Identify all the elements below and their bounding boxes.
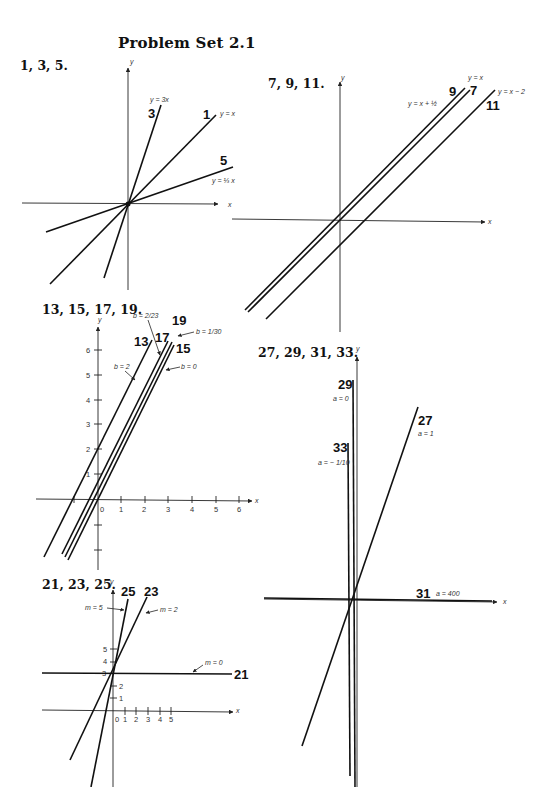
line-29	[353, 380, 355, 787]
svg-text:0: 0	[115, 715, 119, 724]
svg-text:5: 5	[214, 505, 218, 514]
svg-text:1: 1	[203, 107, 210, 122]
svg-text:y = x: y = x	[467, 74, 483, 82]
svg-text:4: 4	[158, 715, 162, 724]
svg-text:y: y	[97, 316, 102, 324]
figure-5-graph: y x 29 a = 0 33 a = − 1/10 27 a = 1 31 a…	[264, 345, 507, 787]
svg-text:7: 7	[470, 83, 477, 98]
svg-text:1: 1	[119, 505, 123, 514]
svg-text:a = 1: a = 1	[418, 430, 434, 437]
svg-text:b = 0: b = 0	[181, 363, 197, 370]
svg-text:y = x − 2: y = x − 2	[497, 88, 525, 96]
svg-text:11: 11	[486, 98, 500, 113]
figure-2-graph: y x 9 7 y = x y = x + ½ 11 y = x − 2	[232, 74, 525, 332]
line-27	[302, 407, 418, 746]
svg-text:m = 5: m = 5	[85, 604, 103, 611]
svg-text:5: 5	[86, 371, 90, 380]
svg-text:x: x	[487, 218, 492, 225]
svg-text:x: x	[254, 497, 259, 504]
svg-text:13: 13	[134, 334, 148, 349]
svg-text:2: 2	[119, 682, 123, 691]
svg-text:b = 1/30: b = 1/30	[196, 328, 222, 335]
svg-text:15: 15	[176, 341, 190, 356]
line-25	[91, 599, 128, 787]
x-axis	[232, 219, 485, 222]
svg-text:m = 0: m = 0	[205, 659, 223, 666]
svg-text:y = ⅓ x: y = ⅓ x	[211, 177, 235, 185]
svg-text:33: 33	[333, 440, 347, 455]
svg-text:x: x	[235, 707, 240, 714]
x-axis	[22, 203, 218, 204]
svg-text:3: 3	[86, 420, 90, 429]
svg-text:0: 0	[100, 505, 104, 514]
svg-text:19: 19	[172, 313, 186, 328]
line-15	[68, 345, 174, 560]
line-9	[245, 88, 465, 310]
svg-text:y: y	[355, 345, 360, 353]
svg-text:6: 6	[237, 505, 241, 514]
svg-text:1: 1	[119, 694, 123, 703]
svg-text:27: 27	[418, 413, 432, 428]
figures-canvas: y x 3 y = 3x 1 y = x 5 y = ⅓ x y x 9 7 y…	[0, 0, 537, 787]
line-23	[70, 597, 147, 760]
svg-text:31: 31	[416, 586, 430, 601]
svg-text:b = 2: b = 2	[114, 363, 130, 370]
svg-text:x: x	[227, 201, 232, 208]
svg-text:3: 3	[146, 715, 150, 724]
svg-text:y = x: y = x	[219, 110, 235, 118]
figure-1-graph: y x 3 y = 3x 1 y = x 5 y = ⅓ x	[22, 58, 235, 290]
line-7	[248, 90, 470, 312]
svg-text:a = − 1/10: a = − 1/10	[318, 459, 350, 466]
line-3	[104, 105, 161, 278]
svg-text:6: 6	[86, 346, 90, 355]
svg-text:b = 2/23: b = 2/23	[133, 312, 159, 319]
svg-text:m = 2: m = 2	[160, 606, 178, 613]
svg-text:9: 9	[449, 84, 456, 99]
svg-text:2: 2	[134, 715, 138, 724]
svg-text:29: 29	[338, 377, 352, 392]
svg-text:y = 3x: y = 3x	[149, 96, 169, 104]
line-5	[46, 167, 233, 232]
figure-4-graph: y x 0 1 2 3 4 5 1 2 3 4 5 25 23 21 m = 5…	[42, 578, 248, 787]
svg-text:y: y	[340, 74, 345, 82]
svg-text:17: 17	[155, 330, 169, 345]
svg-text:25: 25	[121, 584, 135, 599]
line-11	[266, 90, 495, 319]
x-axis	[36, 499, 252, 501]
svg-text:5: 5	[169, 715, 173, 724]
x-axis	[42, 710, 233, 712]
svg-text:1: 1	[123, 715, 127, 724]
svg-text:4: 4	[86, 396, 90, 405]
line-21	[42, 673, 232, 674]
svg-text:a = 0: a = 0	[333, 395, 349, 402]
svg-text:3: 3	[166, 505, 170, 514]
svg-text:a = 400: a = 400	[436, 590, 460, 597]
figure-3-graph: y x 0 1 2 3 4 5 6 1 2 3 4 5 6 13 17 19	[36, 312, 259, 570]
line-19	[65, 342, 172, 557]
svg-text:3: 3	[148, 106, 155, 121]
svg-text:5: 5	[103, 645, 107, 654]
svg-text:23: 23	[144, 584, 158, 599]
svg-text:y: y	[109, 578, 114, 586]
svg-text:x: x	[502, 598, 507, 605]
svg-text:5: 5	[220, 153, 227, 168]
line-1	[50, 115, 216, 284]
line-17	[62, 341, 168, 554]
svg-text:4: 4	[190, 505, 194, 514]
svg-text:y = x + ½: y = x + ½	[407, 100, 437, 108]
svg-text:2: 2	[86, 445, 90, 454]
svg-text:4: 4	[103, 657, 107, 666]
svg-text:y: y	[129, 58, 134, 66]
svg-text:21: 21	[234, 667, 248, 682]
svg-text:2: 2	[142, 505, 146, 514]
